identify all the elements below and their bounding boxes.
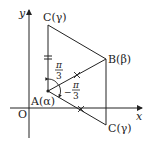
angle-label-lower: − π 3	[64, 80, 80, 101]
diagram-canvas: y x O C(γ) B(β) A(α) C(γ) π 3 − π 3	[0, 0, 150, 147]
point-A-dot	[46, 89, 49, 92]
label-C-top: C(γ)	[43, 11, 67, 24]
x-axis-label: x	[136, 110, 143, 123]
svg-text:π: π	[72, 80, 80, 90]
label-B: B(β)	[108, 53, 131, 66]
svg-text:3: 3	[56, 71, 62, 81]
svg-text:−: −	[64, 87, 72, 97]
svg-text:3: 3	[73, 91, 79, 101]
y-axis-label: y	[18, 7, 26, 20]
angle-label-upper: π 3	[55, 60, 63, 81]
cross-mark-A-B	[74, 72, 80, 78]
angle-arc-lower	[59, 85, 60, 97]
svg-text:π: π	[55, 60, 63, 70]
segment-Ctop-B	[48, 25, 106, 59]
label-C-bottom: C(γ)	[108, 122, 132, 135]
origin-label: O	[18, 108, 27, 121]
label-A: A(α)	[30, 95, 55, 108]
